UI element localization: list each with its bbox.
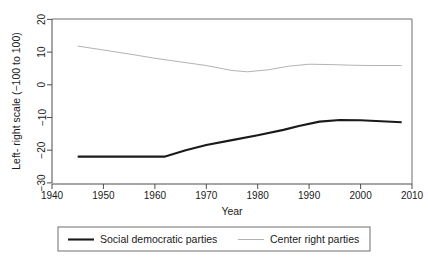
series-line-center-right <box>78 46 402 72</box>
x-axis: 1940 1950 1960 1970 1980 1990 2000 2010 … <box>41 184 424 217</box>
y-tick-label-neg30: −30 <box>37 174 48 191</box>
x-tick-label-1960: 1960 <box>144 190 167 201</box>
y-axis-ticks <box>47 19 52 183</box>
plot-area <box>78 46 402 157</box>
x-tick-label-1940: 1940 <box>41 190 64 201</box>
legend-label-center-right: Center right parties <box>270 233 359 245</box>
x-tick-labels: 1940 1950 1960 1970 1980 1990 2000 2010 <box>41 190 424 201</box>
y-tick-label-20: 20 <box>37 13 48 25</box>
line-chart: 20 10 0 −10 −20 −30 Left- right scale (−… <box>0 0 428 258</box>
legend: Social democratic parties Center right p… <box>58 227 370 251</box>
y-tick-label-10: 10 <box>37 46 48 58</box>
x-tick-label-2010: 2010 <box>401 190 424 201</box>
plot-frame <box>52 19 412 184</box>
y-tick-label-neg20: −20 <box>37 141 48 158</box>
y-axis: 20 10 0 −10 −20 −30 Left- right scale (−… <box>10 13 52 191</box>
x-tick-label-1970: 1970 <box>195 190 218 201</box>
x-tick-label-1950: 1950 <box>92 190 115 201</box>
y-tick-label-0: 0 <box>37 82 48 88</box>
series-line-social-democratic <box>78 120 402 157</box>
x-axis-title: Year <box>221 205 243 217</box>
legend-label-social-democratic: Social democratic parties <box>100 233 217 245</box>
y-tick-label-neg10: −10 <box>37 109 48 126</box>
y-axis-title: Left- right scale (−100 to 100) <box>10 32 22 169</box>
x-tick-label-2000: 2000 <box>349 190 372 201</box>
x-tick-label-1980: 1980 <box>247 190 270 201</box>
chart-figure: 20 10 0 −10 −20 −30 Left- right scale (−… <box>0 0 428 258</box>
x-tick-label-1990: 1990 <box>298 190 321 201</box>
x-axis-ticks <box>52 184 412 189</box>
y-tick-labels: 20 10 0 −10 −20 −30 <box>37 13 48 191</box>
